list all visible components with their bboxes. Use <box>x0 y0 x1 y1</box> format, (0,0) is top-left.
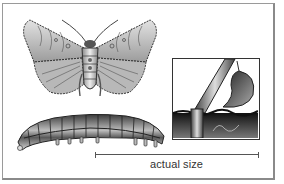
scale-tick-left <box>95 152 96 158</box>
moth-illustration <box>20 14 160 104</box>
scale-tick-right <box>258 152 259 158</box>
cut-stem-inset <box>172 58 260 140</box>
scale-label: actual size <box>150 158 203 170</box>
scale-line <box>95 154 259 155</box>
caterpillar-illustration <box>14 108 166 154</box>
